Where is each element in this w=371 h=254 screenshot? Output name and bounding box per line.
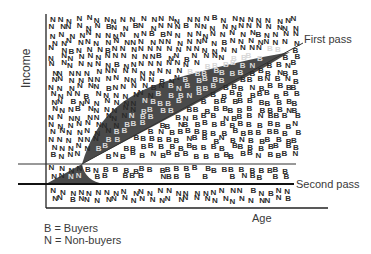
non-buyer-marker: N — [194, 193, 200, 202]
non-buyer-marker: N — [230, 197, 236, 206]
non-buyer-marker: N — [157, 186, 163, 195]
buyer-marker: B — [240, 149, 246, 158]
non-buyer-marker: N — [76, 171, 82, 180]
buyer-marker: B — [201, 143, 207, 152]
non-buyer-marker: N — [148, 59, 154, 68]
non-buyer-marker: N — [96, 89, 102, 98]
buyer-marker: B — [75, 104, 81, 113]
non-buyer-marker: N — [88, 51, 94, 60]
buyer-marker: B — [113, 165, 119, 174]
non-buyer-marker: N — [51, 89, 57, 98]
non-buyer-marker: N — [157, 66, 163, 75]
non-buyer-marker: N — [204, 14, 210, 23]
non-buyer-marker: N — [68, 105, 74, 114]
non-buyer-marker: N — [205, 194, 211, 203]
non-buyer-marker: N — [122, 193, 128, 202]
non-buyer-marker: N — [219, 133, 225, 142]
non-buyer-marker: N — [111, 194, 117, 203]
x-axis-label: Age — [252, 212, 272, 224]
buyer-marker: B — [193, 152, 199, 161]
non-buyer-marker: N — [113, 73, 119, 82]
buyer-marker: B — [247, 128, 253, 137]
buyer-marker: B — [247, 111, 253, 120]
buyer-marker: B — [212, 13, 218, 22]
buyer-marker: B — [122, 126, 128, 135]
buyer-marker: B — [284, 172, 290, 181]
non-buyer-marker: N — [150, 195, 156, 204]
buyer-marker: B — [210, 111, 216, 120]
buyer-segmentation-diagram: NNNNNNNNNNNNNNNNNNBNNNNNNNNNNNNNNNBNNBNN… — [0, 0, 371, 254]
non-buyer-marker: N — [68, 150, 74, 159]
non-buyer-marker: N — [223, 194, 229, 203]
buyer-marker: B — [221, 165, 227, 174]
buyer-marker: B — [95, 172, 101, 181]
non-buyer-marker: N — [57, 74, 63, 83]
non-buyer-marker: N — [292, 149, 298, 158]
non-buyer-marker: N — [66, 36, 72, 45]
legend-item-buyers: B = Buyers — [44, 222, 121, 234]
buyer-marker: B — [202, 84, 208, 93]
buyer-marker: B — [202, 118, 208, 127]
non-buyer-marker: N — [256, 43, 262, 52]
buyer-marker: B — [148, 112, 154, 121]
non-buyer-marker: N — [183, 193, 189, 202]
buyer-marker: B — [106, 152, 112, 161]
non-buyer-marker: N — [204, 51, 210, 60]
non-buyer-marker: N — [158, 21, 164, 30]
buyer-marker: B — [130, 148, 136, 157]
non-buyer-marker: N — [276, 193, 282, 202]
non-buyer-marker: N — [123, 66, 129, 75]
buyer-marker: B — [258, 74, 264, 83]
buyer-marker: B — [268, 150, 274, 159]
non-buyer-marker: N — [121, 111, 127, 120]
buyer-marker: B — [102, 141, 108, 150]
non-buyer-marker: N — [202, 36, 208, 45]
buyer-marker: B — [275, 45, 281, 54]
buyer-marker: B — [166, 172, 172, 181]
non-buyer-marker: N — [78, 59, 84, 68]
non-buyer-marker: N — [131, 196, 137, 205]
non-buyer-marker: N — [120, 15, 126, 24]
buyer-marker: B — [120, 152, 126, 161]
buyer-marker: B — [220, 119, 226, 128]
buyer-marker: B — [141, 142, 147, 151]
non-buyer-marker: N — [75, 149, 81, 158]
non-buyer-marker: N — [151, 15, 157, 24]
non-buyer-marker: N — [95, 21, 101, 30]
buyer-marker: B — [185, 171, 191, 180]
buyer-marker: B — [192, 163, 198, 172]
buyer-marker: B — [246, 51, 252, 60]
first-pass-label: First pass — [304, 33, 352, 45]
non-buyer-marker: N — [49, 22, 55, 31]
buyer-marker: B — [264, 88, 270, 97]
buyer-marker: B — [192, 133, 198, 142]
non-buyer-marker: N — [48, 43, 54, 52]
buyer-marker: B — [85, 165, 91, 174]
buyer-marker: B — [257, 54, 263, 63]
buyer-marker: B — [282, 111, 288, 120]
legend-item-non-buyers: N = Non-buyers — [44, 234, 121, 246]
buyer-marker: B — [166, 148, 172, 157]
non-buyer-marker: N — [187, 91, 193, 100]
buyer-marker: B — [228, 152, 234, 161]
buyer-marker: B — [168, 106, 174, 115]
non-buyer-marker: N — [292, 119, 298, 128]
buyer-marker: B — [70, 195, 76, 204]
buyer-marker: B — [232, 126, 238, 135]
buyer-marker: B — [282, 149, 288, 158]
non-buyer-marker: N — [129, 111, 135, 120]
buyer-marker: B — [238, 119, 244, 128]
non-buyer-marker: N — [239, 194, 245, 203]
non-buyer-marker: N — [106, 74, 112, 83]
non-buyer-marker: N — [201, 22, 207, 31]
buyer-marker: B — [273, 141, 279, 150]
non-buyer-marker: N — [167, 44, 173, 53]
buyer-marker: B — [147, 165, 153, 174]
buyer-marker: B — [174, 150, 180, 159]
non-buyer-marker: N — [212, 51, 218, 60]
non-buyer-marker: N — [194, 58, 200, 67]
non-buyer-marker: N — [59, 171, 65, 180]
non-buyer-marker: N — [285, 74, 291, 83]
buyer-marker: B — [139, 151, 145, 160]
buyer-marker: B — [192, 143, 198, 152]
